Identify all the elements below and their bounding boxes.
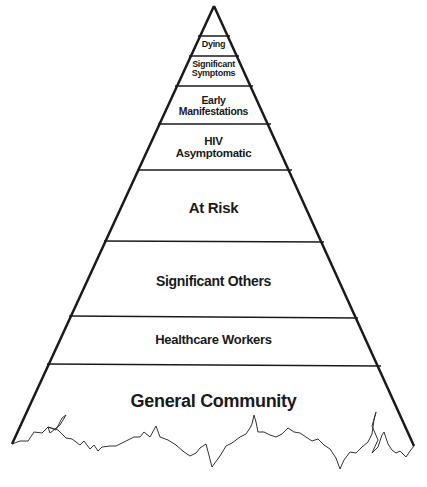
label-line: HIV — [0, 135, 427, 147]
level-label-at-risk: At Risk — [0, 200, 427, 216]
level-label-general-community: General Community — [0, 392, 427, 411]
level-label-early-manifestations: Early Manifestations — [0, 95, 427, 117]
level-label-hiv-asymptomatic: HIV Asymptomatic — [0, 135, 427, 159]
label-line: Manifestations — [0, 106, 427, 117]
torn-base-edge — [12, 412, 414, 469]
level-label-dying: Dying — [0, 40, 427, 49]
label-line: Symptoms — [0, 69, 427, 78]
level-label-significant-symptoms: Significant Symptoms — [0, 60, 427, 79]
level-label-healthcare-workers: Healthcare Workers — [0, 333, 427, 347]
level-label-significant-others: Significant Others — [0, 274, 427, 289]
label-line: Asymptomatic — [0, 147, 427, 159]
